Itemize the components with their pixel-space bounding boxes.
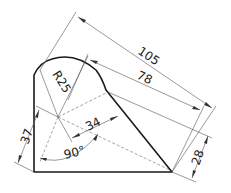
dim-78-label: 78 xyxy=(135,68,155,87)
arrow-34-a xyxy=(72,133,80,138)
arrow-34-b xyxy=(110,116,118,121)
radius-label: R25 xyxy=(49,68,73,95)
ext-37-bottom xyxy=(14,162,34,172)
dim-105-line xyxy=(78,17,212,108)
ext-78-left xyxy=(68,54,88,100)
dim-105-label: 105 xyxy=(135,44,162,68)
arrow-28-b xyxy=(192,170,196,178)
arrow-37-a xyxy=(35,110,39,118)
arrow-105-a xyxy=(78,17,86,23)
centerline-3 xyxy=(40,117,58,162)
technical-drawing: R25 105 78 28 37 34 90° xyxy=(0,0,231,193)
dim-34-label: 34 xyxy=(83,114,103,133)
arrow-28-a xyxy=(204,136,208,144)
ext-105-left xyxy=(40,12,76,70)
arrow-37-b xyxy=(18,155,22,163)
centerline-2 xyxy=(58,117,170,170)
ext-34-left xyxy=(58,117,72,142)
arrow-105-b xyxy=(204,102,212,108)
centerline-1 xyxy=(58,92,108,117)
angle-label: 90° xyxy=(62,143,86,162)
dim-28-label: 28 xyxy=(189,148,207,167)
ext-28-top xyxy=(108,92,212,138)
